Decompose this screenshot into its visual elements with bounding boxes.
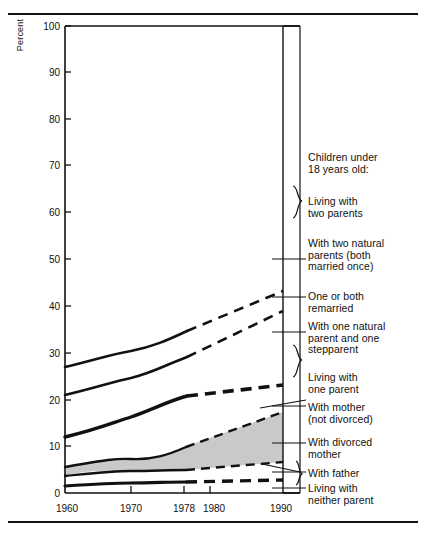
legend-item-living-with-two-parents[interactable]: Living with two parents xyxy=(308,196,363,219)
x-axis-ticks xyxy=(131,486,210,493)
legend-item-two-natural-parents[interactable]: With two natural parents (both married o… xyxy=(308,238,384,273)
series-line-one-or-both-remarried-dashed xyxy=(187,311,283,357)
xtick-label-1960: 1960 xyxy=(56,503,79,514)
legend-item-with-mother-not-divorced[interactable]: With mother (not divorced) xyxy=(308,402,373,425)
ytick-label-60: 60 xyxy=(49,207,61,218)
y-axis-ticks xyxy=(65,26,71,446)
ytick-label-70: 70 xyxy=(49,160,61,171)
shaded-band-divorced-mother xyxy=(65,412,283,476)
ytick-label-90: 90 xyxy=(49,67,61,78)
ytick-label-100: 100 xyxy=(43,21,60,32)
ytick-label-40: 40 xyxy=(49,301,61,312)
ytick-label-50: 50 xyxy=(49,254,61,265)
legend-item-living-with-neither-parent[interactable]: Living with neither parent xyxy=(308,483,374,506)
xtick-label-1978: 1978 xyxy=(173,503,196,514)
ytick-label-80: 80 xyxy=(49,114,61,125)
legend-brace-two-parents xyxy=(293,186,302,218)
legend-item-with-father[interactable]: With father xyxy=(308,468,359,480)
series-line-two-natural-parents-solid xyxy=(65,331,187,367)
xtick-label-1980: 1980 xyxy=(203,503,226,514)
legend-heading: Children under 18 years old: xyxy=(308,152,378,175)
legend-item-living-with-one-parent[interactable]: Living with one parent xyxy=(308,372,359,395)
legend-brace-one-parent xyxy=(293,345,302,377)
xtick-label-1970: 1970 xyxy=(120,503,143,514)
ytick-label-10: 10 xyxy=(49,441,61,452)
series-line-neither-parent-solid xyxy=(65,482,186,486)
ytick-label-0: 0 xyxy=(54,488,60,499)
legend-item-one-or-both-remarried[interactable]: One or both remarried xyxy=(308,291,364,314)
chart-page: Percent 100 90 xyxy=(0,0,426,534)
series-line-one-parent-boundary-solid xyxy=(65,396,187,437)
legend-brace-neither-parent xyxy=(296,461,302,485)
xtick-label-1990: 1990 xyxy=(270,503,293,514)
ytick-label-20: 20 xyxy=(49,395,61,406)
series-line-one-parent-boundary-dashed xyxy=(187,385,283,396)
ytick-label-30: 30 xyxy=(49,348,61,359)
legend-item-with-divorced-mother[interactable]: With divorced mother xyxy=(308,437,372,460)
series-line-neither-parent-dashed xyxy=(186,480,283,482)
series-line-two-natural-parents-dashed xyxy=(187,291,283,331)
legend-item-one-natural-parent-stepparent[interactable]: With one natural parent and one steppare… xyxy=(308,321,385,356)
